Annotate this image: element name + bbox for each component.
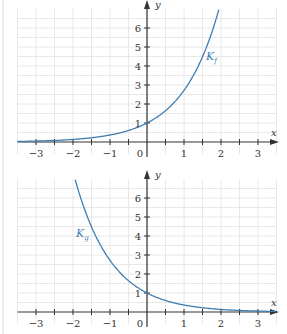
- x-tick-label: −3: [29, 148, 44, 159]
- x-tick-label: −2: [66, 148, 81, 159]
- chart-panel-2: −3−2−10123123456xyKg: [18, 169, 280, 329]
- y-tick-label: 2: [135, 99, 141, 110]
- x-tick-label: 3: [255, 318, 261, 329]
- y-tick-label: 2: [135, 269, 141, 280]
- y-tick-label: 5: [135, 212, 141, 223]
- curve-label: Kf: [205, 50, 218, 65]
- x-tick-label: 0: [137, 148, 143, 159]
- y-tick-label: 3: [135, 250, 141, 261]
- x-tick-label: 1: [181, 318, 187, 329]
- x-tick-label: 2: [218, 318, 224, 329]
- x-tick-label: 2: [218, 148, 224, 159]
- x-tick-label: −1: [103, 148, 118, 159]
- curve-label: Kg: [75, 227, 89, 242]
- x-axis-label: x: [271, 297, 277, 308]
- y-axis-label: y: [154, 0, 161, 10]
- x-tick-label: −3: [29, 318, 44, 329]
- y-tick-label: 3: [135, 80, 141, 91]
- x-tick-label: 3: [255, 148, 261, 159]
- x-tick-label: −2: [66, 318, 81, 329]
- y-tick-label: 4: [135, 231, 141, 242]
- y-axis-arrow-icon: [144, 0, 150, 9]
- y-tick-label: 6: [135, 23, 141, 34]
- y-axis-label: y: [154, 169, 161, 180]
- x-tick-label: 0: [137, 318, 143, 329]
- y-tick-label: 4: [135, 61, 141, 72]
- y-axis-arrow-icon: [144, 170, 150, 179]
- x-axis-arrow-icon: [270, 139, 279, 145]
- x-axis-label: x: [271, 127, 277, 138]
- chart-panel-1: −3−2−10123123456xyKf: [18, 0, 280, 159]
- exponential-plots: −3−2−10123123456xyKf−3−2−10123123456xyKg: [0, 0, 287, 334]
- y-tick-label: 6: [135, 193, 141, 204]
- x-tick-label: −1: [103, 318, 118, 329]
- y-tick-label: 5: [135, 42, 141, 53]
- chart-figure: −3−2−10123123456xyKf−3−2−10123123456xyKg: [0, 0, 287, 334]
- x-tick-label: 1: [181, 148, 187, 159]
